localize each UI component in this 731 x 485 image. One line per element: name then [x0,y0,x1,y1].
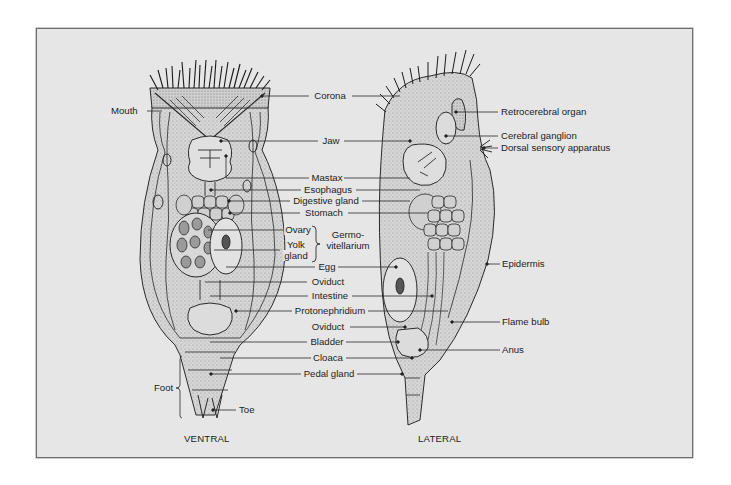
view-title-lateral: LATERAL [418,433,461,444]
label-digestive-gland: Digestive gland [292,195,360,206]
label-mastax: Mastax [311,172,344,183]
label-toe: Toe [238,404,255,415]
label-retrocerebral-organ: Retrocerebral organ [500,106,587,117]
label-yolk-gland-line2: gland [283,250,308,261]
label-cerebral-ganglion: Cerebral ganglion [500,130,578,141]
germovitellarium-brace [311,225,321,263]
label-germovitellarium-line1: Germo- [331,229,366,240]
label-yolk-gland-line1: Yolk [286,239,306,250]
label-stomach: Stomach [304,207,344,218]
label-cloaca: Cloaca [312,352,344,363]
label-pedal-gland: Pedal gland [303,368,356,379]
label-foot: Foot [153,382,174,393]
label-mouth: Mouth [110,105,139,116]
label-intestine: Intestine [311,290,349,301]
label-epidermis: Epidermis [501,258,546,269]
label-flame-bulb: Flame bulb [501,316,550,327]
label-esophagus: Esophagus [303,184,353,195]
label-germovitellarium-line2: vitellarium [325,240,370,251]
lateral-specimen [376,50,495,425]
label-jaw: Jaw [321,135,340,146]
label-ovary: Ovary [284,224,312,235]
label-protonephridium: Protonephridium [294,305,366,316]
ventral-specimen [140,60,285,418]
label-oviduct: Oviduct [311,276,346,287]
view-title-ventral: VENTRAL [184,433,230,444]
label-oviduct-2: Oviduct [311,321,346,332]
label-anus: Anus [501,344,525,355]
label-egg: Egg [317,261,336,272]
label-corona: Corona [313,90,346,101]
label-bladder: Bladder [309,336,344,347]
label-dorsal-sensory-apparatus: Dorsal sensory apparatus [500,142,611,153]
